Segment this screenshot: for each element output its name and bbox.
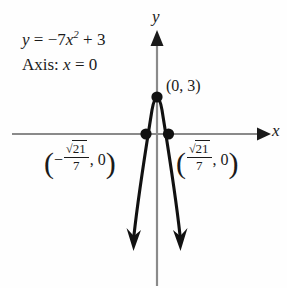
radicand: 21 (195, 140, 210, 156)
equation-constant: 3 (97, 30, 106, 49)
equation-plus: + (83, 30, 93, 49)
radical-expression: √21 (189, 141, 210, 157)
right-intercept-label: (√217, 0) (176, 141, 239, 182)
x-axis-label: x (272, 120, 280, 141)
right-numerator: √21 (187, 141, 212, 158)
left-open-paren: ( (44, 146, 54, 179)
left-fraction: √217 (64, 141, 89, 175)
right-intercept-point (163, 128, 174, 139)
equation-coefficient: −7 (48, 30, 66, 49)
radical-expression: √21 (66, 141, 87, 157)
equation-line: y = −7x2 + 3 (22, 28, 105, 50)
equation-annotation: y = −7x2 + 3 Axis: x = 0 (22, 28, 105, 75)
axis-variable: x (63, 55, 71, 74)
right-y-value: 0 (221, 151, 229, 168)
equation-exponent: 2 (73, 28, 79, 40)
vertex-point (151, 91, 162, 102)
right-denominator: 7 (187, 158, 212, 174)
left-y-value: 0 (98, 151, 106, 168)
left-minus-sign: − (54, 151, 63, 168)
left-numerator: √21 (64, 141, 89, 158)
axis-value: 0 (89, 55, 98, 74)
axis-prefix: Axis: (22, 55, 59, 74)
x-axis-arrowhead (257, 128, 271, 141)
right-open-paren: ( (176, 146, 186, 179)
parabola-figure: y = −7x2 + 3 Axis: x = 0 (0, 3) (−√217, … (0, 0, 287, 288)
right-close-paren: ) (229, 146, 239, 179)
right-comma: , (213, 151, 217, 168)
left-denominator: 7 (64, 158, 89, 174)
left-intercept-label: (−√217, 0) (44, 141, 116, 182)
radicand: 21 (72, 140, 87, 156)
left-intercept-point (140, 128, 151, 139)
left-close-paren: ) (106, 146, 116, 179)
axis-equals: = (75, 55, 85, 74)
y-axis-arrowhead (151, 30, 164, 46)
y-axis-label: y (152, 6, 160, 27)
left-comma: , (90, 151, 94, 168)
right-fraction: √217 (187, 141, 212, 175)
vertex-label: (0, 3) (166, 76, 201, 96)
equation-lhs: y (22, 30, 30, 49)
axis-of-symmetry-line: Axis: x = 0 (22, 54, 105, 75)
equation-equals: = (34, 30, 44, 49)
